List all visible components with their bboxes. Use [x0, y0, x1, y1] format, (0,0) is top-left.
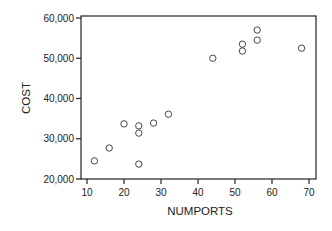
y-tick-label: 30,000 [43, 133, 74, 144]
data-point [254, 37, 260, 43]
data-point [136, 161, 142, 167]
data-point [136, 123, 142, 129]
y-tick-label: 20,000 [43, 174, 74, 185]
y-tick-label: 50,000 [43, 53, 74, 64]
x-axis: 10203040506070 [81, 179, 315, 198]
x-axis-title: NUMPORTS [167, 205, 233, 217]
data-point [239, 41, 245, 47]
x-tick-label: 30 [155, 187, 167, 198]
data-point [150, 120, 156, 126]
data-point [91, 158, 97, 164]
data-point [210, 55, 216, 61]
data-point [298, 45, 304, 51]
y-tick-label: 40,000 [43, 93, 74, 104]
y-tick-label: 60,000 [43, 13, 74, 24]
x-tick-label: 10 [81, 187, 93, 198]
y-axis: 20,00030,00040,00050,00060,000 [43, 13, 81, 185]
data-point [239, 48, 245, 54]
scatter-chart: 20,00030,00040,00050,00060,000 102030405… [0, 0, 332, 231]
plot-area-frame [81, 16, 316, 179]
x-tick-label: 40 [192, 187, 204, 198]
x-tick-label: 50 [229, 187, 241, 198]
data-point [254, 27, 260, 33]
x-tick-label: 70 [303, 187, 315, 198]
data-point [136, 130, 142, 136]
data-point [106, 145, 112, 151]
data-point [121, 121, 127, 127]
y-axis-title: COST [20, 82, 32, 114]
x-tick-label: 60 [266, 187, 278, 198]
data-points [91, 27, 305, 167]
data-point [165, 111, 171, 117]
x-tick-label: 20 [118, 187, 130, 198]
